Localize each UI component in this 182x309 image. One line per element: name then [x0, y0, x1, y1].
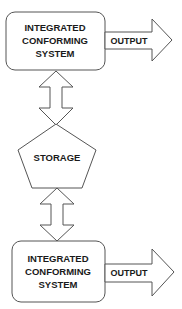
lower-double-arrow: [40, 188, 74, 241]
top-box-line-2: CONFORMING: [22, 35, 88, 46]
top-box-line-1: INTEGRATED: [24, 22, 85, 33]
top-system-box: INTEGRATED CONFORMING SYSTEM: [6, 12, 105, 70]
top-output-arrow: OUTPUT: [105, 19, 172, 61]
storage-label: STORAGE: [34, 152, 81, 163]
storage-pentagon: STORAGE: [18, 124, 96, 188]
bottom-system-box: INTEGRATED CONFORMING SYSTEM: [12, 241, 105, 302]
upper-double-arrow: [39, 71, 73, 125]
bottom-box-line-2: CONFORMING: [25, 266, 91, 277]
bottom-box-line-3: SYSTEM: [38, 279, 77, 290]
top-output-label: OUTPUT: [111, 36, 149, 46]
bottom-output-label: OUTPUT: [111, 268, 149, 278]
top-box-line-3: SYSTEM: [35, 48, 74, 59]
bottom-output-arrow: OUTPUT: [105, 249, 174, 296]
bottom-box-line-1: INTEGRATED: [27, 253, 88, 264]
diagram-canvas: INTEGRATED CONFORMING SYSTEM OUTPUT STOR…: [0, 0, 182, 309]
